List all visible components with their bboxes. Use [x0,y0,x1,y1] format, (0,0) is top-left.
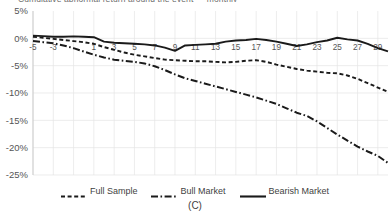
legend-label: Full Sample [90,186,138,196]
svg-text:23: 23 [312,43,322,52]
svg-text:-5%: -5% [11,60,28,71]
svg-text:3: 3 [112,43,117,52]
svg-text:27: 27 [353,43,363,52]
svg-text:-15%: -15% [6,115,29,126]
legend-entry-bearish-market[interactable]: Bearish Market [240,186,330,196]
panel-label: (C) [0,200,390,211]
legend-entry-bull-market[interactable]: Bull Market [151,186,225,196]
svg-text:19: 19 [272,43,282,52]
svg-text:15: 15 [231,43,241,52]
legend-swatch-dashed [61,187,87,196]
legend-label: Bull Market [180,186,225,196]
y-axis-tick-labels: 5%0%-5%-10%-15%-20%-25% [6,5,29,180]
data-series [33,36,388,163]
legend-label: Bearish Market [269,186,330,196]
legend-swatch-solid [240,187,266,196]
svg-text:-10%: -10% [6,87,29,98]
figure-panel-c: Cumulative abnormal return around the ev… [0,0,390,219]
grid-lines [33,11,388,175]
svg-text:17: 17 [252,43,262,52]
svg-text:-5: -5 [29,43,37,52]
svg-text:0%: 0% [14,33,28,44]
svg-text:-25%: -25% [6,169,29,180]
svg-text:5%: 5% [14,5,28,16]
legend-entry-full-sample[interactable]: Full Sample [61,186,138,196]
legend-swatch-dash-dot [151,187,177,196]
line-chart-svg: 5%0%-5%-10%-15%-20%-25% -5-3135791113151… [0,0,390,182]
svg-text:-20%: -20% [6,142,29,153]
chart-legend: Full SampleBull MarketBearish Market [0,183,390,199]
series-line-bull-market [33,41,388,163]
svg-text:25: 25 [333,43,343,52]
chart-plot-area: 5%0%-5%-10%-15%-20%-25% -5-3135791113151… [0,0,390,182]
